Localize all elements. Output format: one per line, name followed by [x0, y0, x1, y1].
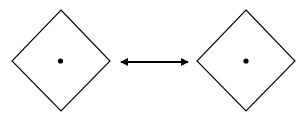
right-diamond-center-dot	[243, 58, 248, 63]
left-diamond-node	[12, 10, 110, 111]
right-diamond-node	[197, 10, 295, 111]
diagram-canvas	[0, 0, 303, 120]
left-diamond-center-dot	[58, 58, 63, 63]
